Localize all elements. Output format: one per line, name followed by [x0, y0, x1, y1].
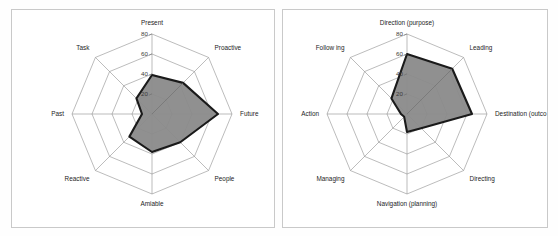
tick-label: 60 — [396, 50, 403, 57]
tick-label: 80 — [396, 30, 403, 37]
axis-category-label: Present — [141, 19, 163, 26]
axis-category-label: Leading — [470, 44, 493, 52]
data-series-polygon[interactable] — [129, 75, 218, 152]
axis-category-label: Destination (outco — [495, 110, 547, 118]
axis-category-label: Navigation (planning) — [377, 200, 437, 208]
axis-category-label: Follow ing — [316, 44, 345, 52]
axis-category-label: Future — [240, 110, 259, 117]
tick-label: 20 — [141, 90, 148, 97]
tick-label: 40 — [141, 70, 148, 77]
tick-label: 20 — [396, 90, 403, 97]
data-series-polygon[interactable] — [391, 54, 472, 132]
axis-category-label: Action — [301, 110, 319, 117]
radar-chart-panel-left[interactable]: 20406080PresentProactiveFuturePeopleAmia… — [0, 0, 279, 236]
axis-category-label: Direction (purpose) — [380, 19, 434, 27]
tick-label: 60 — [141, 50, 148, 57]
axis-category-label: Task — [76, 44, 90, 51]
axis-category-label: People — [215, 175, 235, 183]
tick-label: 80 — [141, 30, 148, 37]
axis-category-label: Proactive — [215, 44, 242, 51]
tick-label: 40 — [396, 70, 403, 77]
axis-category-label: Amiable — [140, 200, 164, 207]
screenshot-page: 20406080PresentProactiveFuturePeopleAmia… — [0, 0, 558, 236]
radar-chart-panel-right[interactable]: 20406080Direction (purpose)LeadingDestin… — [279, 0, 558, 236]
axis-category-label: Directing — [470, 175, 496, 183]
radar-chart-left[interactable]: 20406080PresentProactiveFuturePeopleAmia… — [0, 0, 279, 236]
chart-panels: 20406080PresentProactiveFuturePeopleAmia… — [0, 0, 558, 236]
radar-chart-right[interactable]: 20406080Direction (purpose)LeadingDestin… — [279, 0, 558, 236]
axis-category-label: Past — [51, 110, 64, 117]
axis-category-label: Reactive — [65, 175, 90, 182]
axis-category-label: Managing — [316, 175, 345, 183]
